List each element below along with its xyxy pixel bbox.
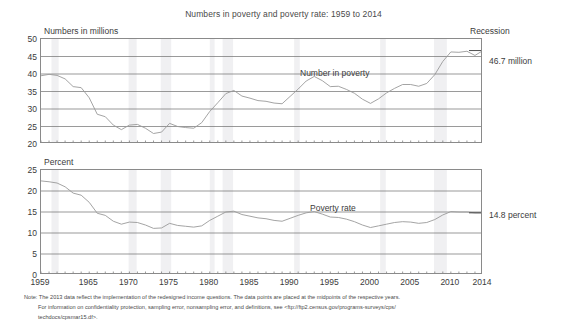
bottom-chart-plot-area	[40, 169, 482, 274]
note-line-1: Note: The 2013 data reflect the implemen…	[24, 293, 494, 303]
x-axis-tick-label: 2000	[352, 277, 386, 287]
poverty-chart-figure: Numbers in poverty and poverty rate: 195…	[0, 0, 567, 322]
note-line-2: For information on confidentiality prote…	[24, 303, 494, 313]
bottom-panel-axis-title: Percent	[44, 157, 73, 167]
top-series-label: Number in poverty	[300, 68, 369, 78]
y-axis-tick-label: 50	[15, 34, 37, 44]
y-axis-tick-label: 10	[15, 228, 37, 238]
x-axis-tick-label: 2014	[465, 277, 499, 287]
top-panel-axis-title: Numbers in millions	[44, 26, 118, 36]
x-axis-tick-label: 1975	[152, 277, 186, 287]
recession-band	[294, 170, 300, 274]
data-series-line	[41, 181, 482, 228]
bottom-endpoint-label: 14.8 percent	[489, 210, 536, 220]
recession-band	[210, 170, 215, 274]
x-axis-tick-label: 1990	[272, 277, 306, 287]
recession-band	[51, 39, 58, 143]
recession-legend-label: Recession	[470, 26, 510, 36]
y-axis-tick-label: 30	[15, 104, 37, 114]
y-axis-tick-label: 40	[15, 69, 37, 79]
y-axis-tick-label: 35	[15, 87, 37, 97]
x-axis-tick-label: 2010	[433, 277, 467, 287]
y-axis-tick-label: 25	[15, 165, 37, 175]
x-axis-tick-label: 2005	[393, 277, 427, 287]
x-axis-tick-label: 1970	[111, 277, 145, 287]
recession-band	[161, 170, 171, 274]
x-axis-tick-label: 1980	[192, 277, 226, 287]
recession-band	[380, 39, 386, 143]
figure-title: Numbers in poverty and poverty rate: 195…	[0, 9, 567, 19]
data-series-line	[41, 51, 482, 134]
recession-band	[51, 170, 58, 274]
y-axis-tick-label: 20	[15, 186, 37, 196]
recession-band	[294, 39, 300, 143]
x-axis-tick-label: 1965	[71, 277, 105, 287]
note-line-3: techdocs/cpsmar15.df>.	[24, 313, 494, 322]
y-axis-tick-label: 20	[15, 139, 37, 149]
recession-band	[380, 170, 386, 274]
recession-band	[434, 170, 447, 274]
y-axis-tick-label: 5	[15, 249, 37, 259]
bottom-series-label: Poverty rate	[310, 203, 356, 213]
top-chart-plot-area	[40, 38, 482, 143]
y-axis-tick-label: 45	[15, 52, 37, 62]
figure-note: Note: The 2013 data reflect the implemen…	[24, 293, 494, 322]
y-axis-tick-label: 25	[15, 122, 37, 132]
x-axis-tick-label: 1985	[232, 277, 266, 287]
x-axis-tick-label: 1959	[23, 277, 57, 287]
recession-band	[210, 39, 215, 143]
y-axis-tick-label: 15	[15, 207, 37, 217]
recession-band	[223, 170, 233, 274]
top-endpoint-label: 46.7 million	[489, 56, 532, 66]
recession-band	[434, 39, 447, 143]
x-axis-tick-label: 1995	[312, 277, 346, 287]
recession-band	[129, 39, 137, 143]
